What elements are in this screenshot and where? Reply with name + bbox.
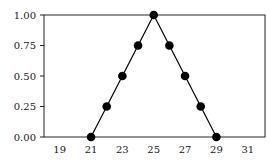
y-tick-label: 0.50 (14, 71, 36, 82)
y-tick-label: 1.00 (14, 10, 36, 21)
data-line (91, 15, 216, 137)
x-axis-ticks: 19212325272931 (53, 144, 254, 155)
data-point (102, 102, 111, 111)
line-chart: 0.000.250.500.751.00 19212325272931 (0, 0, 280, 160)
data-point (87, 133, 96, 142)
x-tick-label: 31 (241, 144, 254, 155)
data-point (134, 41, 143, 50)
plot-frame (44, 15, 265, 137)
data-point (212, 133, 221, 142)
data-point (196, 102, 205, 111)
x-tick-label: 29 (210, 144, 223, 155)
data-point (149, 11, 158, 20)
y-tick-label: 0.25 (14, 101, 36, 112)
x-tick-label: 23 (116, 144, 129, 155)
y-axis-ticks: 0.000.250.500.751.00 (14, 10, 44, 143)
x-tick-label: 21 (85, 144, 98, 155)
y-tick-label: 0.00 (14, 132, 36, 143)
data-point (118, 72, 127, 81)
x-tick-label: 25 (147, 144, 160, 155)
y-tick-label: 0.75 (14, 40, 36, 51)
data-point (181, 72, 190, 81)
data-points (87, 11, 221, 142)
x-tick-label: 27 (179, 144, 192, 155)
data-point (165, 41, 174, 50)
x-tick-label: 19 (53, 144, 66, 155)
